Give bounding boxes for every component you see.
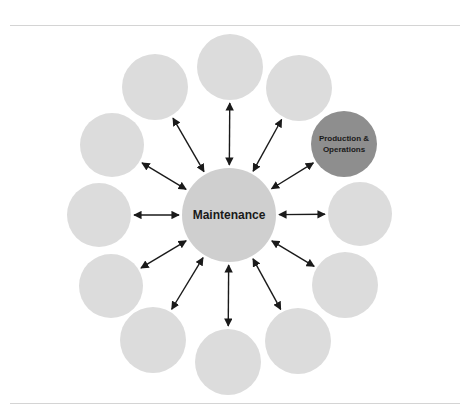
outer-node xyxy=(67,183,131,247)
node-label: Production & Operations xyxy=(315,111,373,177)
bidirectional-arrow xyxy=(141,241,186,268)
outer-node xyxy=(197,34,263,100)
outer-node xyxy=(79,254,143,318)
bidirectional-arrow xyxy=(253,259,281,310)
outer-node xyxy=(80,113,144,177)
outer-node xyxy=(265,308,331,374)
bidirectional-arrow xyxy=(253,120,281,172)
bidirectional-arrow xyxy=(172,258,203,310)
outer-node xyxy=(195,329,261,395)
outer-node xyxy=(122,54,188,120)
outer-node xyxy=(120,307,186,373)
outer-node xyxy=(328,182,392,246)
bidirectional-arrow xyxy=(272,241,314,267)
center-node-label: Maintenance xyxy=(182,168,276,262)
bidirectional-arrow xyxy=(173,118,204,172)
outer-node xyxy=(312,252,378,318)
bidirectional-arrow xyxy=(272,163,314,189)
bidirectional-arrow xyxy=(142,163,186,189)
